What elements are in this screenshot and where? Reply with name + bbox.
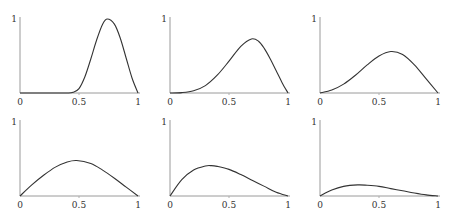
x-tick-label: 1 [435, 200, 441, 210]
x-tick-label: 0 [17, 200, 23, 210]
axes: 100.51 [311, 117, 441, 210]
plot-panel-6: 100.51 [300, 110, 450, 220]
density-curve [320, 185, 438, 196]
y-tick-label: 1 [311, 14, 317, 24]
x-tick-label: 0 [167, 200, 173, 210]
plot-panel-4: 100.51 [0, 110, 150, 220]
plot-panel-3: 100.51 [300, 0, 450, 110]
y-tick-label: 1 [311, 117, 317, 127]
y-tick-label: 1 [11, 117, 17, 127]
density-curve [20, 19, 138, 93]
density-curve [170, 166, 288, 196]
plot-panel-5: 100.51 [150, 110, 300, 220]
density-curve [320, 52, 438, 93]
x-tick-label: 0 [167, 97, 173, 107]
y-tick-label: 1 [161, 117, 167, 127]
axes: 100.51 [311, 14, 441, 107]
axes: 100.51 [11, 117, 141, 210]
chart-grid: 100.51 100.51 100.51 100.51 100.51 100.5… [0, 0, 452, 221]
y-tick-label: 1 [161, 14, 167, 24]
x-tick-label: 1 [135, 200, 141, 210]
x-tick-label: 0 [317, 200, 323, 210]
plot-panel-2: 100.51 [150, 0, 300, 110]
x-tick-label: 0.5 [222, 200, 237, 210]
x-tick-label: 0 [317, 97, 323, 107]
x-tick-label: 0.5 [72, 97, 87, 107]
plot-panel-1: 100.51 [0, 0, 150, 110]
x-tick-label: 0.5 [372, 200, 387, 210]
x-tick-label: 0.5 [222, 97, 237, 107]
x-tick-label: 0.5 [72, 200, 87, 210]
x-tick-label: 0.5 [372, 97, 387, 107]
y-tick-label: 1 [11, 14, 17, 24]
x-tick-label: 1 [285, 97, 291, 107]
axes: 100.51 [161, 117, 291, 210]
x-tick-label: 1 [285, 200, 291, 210]
density-curve [20, 160, 138, 196]
x-tick-label: 1 [435, 97, 441, 107]
x-tick-label: 1 [135, 97, 141, 107]
x-tick-label: 0 [17, 97, 23, 107]
density-curve [170, 39, 288, 93]
